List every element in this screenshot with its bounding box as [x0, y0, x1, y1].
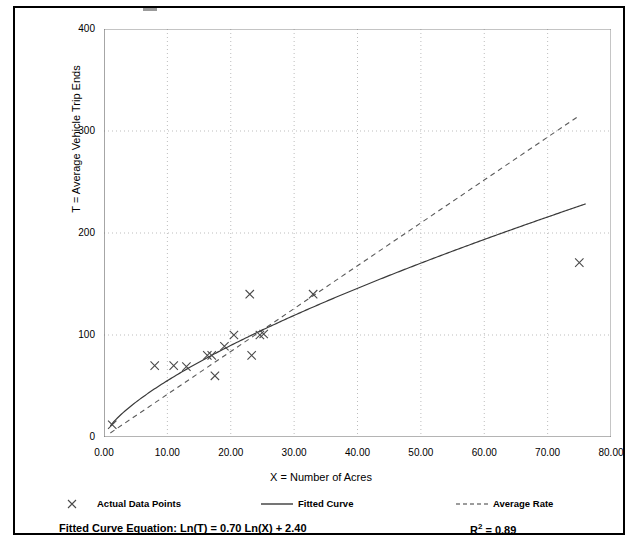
top-edge-artifact	[143, 8, 157, 11]
x-marker-icon	[59, 495, 93, 513]
y-tick-label: 400	[61, 23, 95, 34]
legend-label-fitted-curve: Fitted Curve	[298, 498, 353, 509]
x-tick-label: 60.00	[460, 447, 508, 458]
x-tick-label: 20.00	[207, 447, 255, 458]
x-tick-label: 80.00	[587, 447, 635, 458]
x-tick-label: 40.00	[334, 447, 382, 458]
y-tick-label: 300	[61, 125, 95, 136]
y-tick-label: 0	[61, 431, 95, 442]
figure-frame: T = Average Vehicle Trip Ends X = Number…	[13, 6, 625, 535]
chart-footer: Fitted Curve Equation: Ln(T) = 0.70 Ln(X…	[15, 520, 627, 542]
y-tick-label: 200	[61, 227, 95, 238]
x-tick-label: 30.00	[270, 447, 318, 458]
chart-canvas	[104, 29, 611, 437]
solid-line-icon	[260, 495, 294, 513]
fitted-curve-equation: Fitted Curve Equation: Ln(T) = 0.70 Ln(X…	[59, 522, 307, 534]
x-tick-label: 50.00	[397, 447, 445, 458]
x-axis-title: X = Number of Acres	[15, 471, 627, 483]
dashed-line-icon	[455, 495, 489, 513]
legend-label-average-rate: Average Rate	[493, 498, 553, 509]
r-squared-value: R2 = 0.89	[470, 522, 516, 536]
y-tick-label: 100	[61, 329, 95, 340]
legend-label-actual-data-points: Actual Data Points	[97, 498, 181, 509]
plot-area	[104, 29, 611, 437]
y-axis-title: T = Average Vehicle Trip Ends	[70, 24, 82, 254]
x-tick-label: 0.00	[80, 447, 128, 458]
chart-legend: Actual Data Points Fitted Curve Average …	[15, 495, 627, 513]
x-tick-label: 10.00	[143, 447, 191, 458]
x-tick-label: 70.00	[524, 447, 572, 458]
